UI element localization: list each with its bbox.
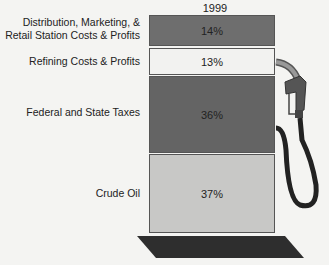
nozzle-icon [285,76,306,112]
hose-loop-icon [276,118,316,206]
pump-base-icon [137,236,304,258]
gas-pump-illustration [0,0,329,265]
